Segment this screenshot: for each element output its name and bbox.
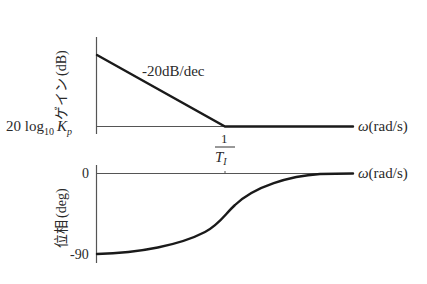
gain-y-label: ゲイン(dB) — [53, 50, 70, 120]
gain-x-label: ω(rad/s) — [358, 118, 408, 135]
break-denominator: TI — [215, 149, 227, 167]
phase-x-label: ω(rad/s) — [358, 165, 408, 182]
bode-diagram: -20dB/dec 20 log10Kp ゲイン(dB) ω(rad/s) 1 … — [0, 0, 427, 284]
phase-y-label: 位相(deg) — [53, 188, 70, 248]
phase-tick-0: 0 — [82, 166, 89, 181]
gain-plot: -20dB/dec 20 log10Kp ゲイン(dB) ω(rad/s) 1 … — [6, 37, 408, 167]
phase-tick-minus-90: -90 — [70, 247, 89, 262]
phase-plot: 0 -90 位相(deg) ω(rad/s) — [53, 165, 408, 263]
break-frequency-label: 1 TI — [215, 131, 235, 167]
slope-label: -20dB/dec — [142, 63, 205, 79]
break-numerator: 1 — [221, 131, 228, 146]
gain-curve — [97, 55, 353, 127]
phase-curve — [97, 174, 353, 255]
